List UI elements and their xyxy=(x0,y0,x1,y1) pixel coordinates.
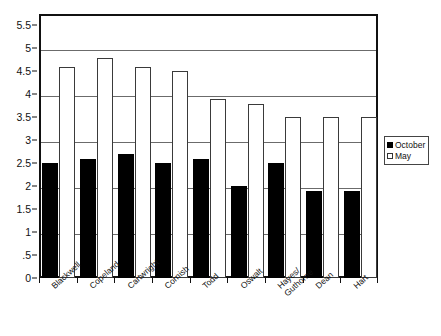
y-tick-label: .5 xyxy=(22,249,31,261)
y-tick-label: 1 xyxy=(25,226,31,238)
y-axis: 0.511.522.533.544.555.5 xyxy=(0,14,37,278)
legend-label: May xyxy=(395,151,411,161)
bar-may xyxy=(285,117,301,278)
y-tick-mark xyxy=(32,163,37,164)
bar-group xyxy=(155,14,188,278)
bar-group xyxy=(268,14,301,278)
y-tick-label: 2.5 xyxy=(16,157,31,169)
bar-october xyxy=(306,191,322,278)
y-tick-mark xyxy=(32,209,37,210)
bar-may xyxy=(135,67,151,278)
bar-october xyxy=(80,159,96,278)
bar-october xyxy=(42,163,58,278)
bar-may xyxy=(323,117,339,278)
y-tick-label: 4 xyxy=(25,88,31,100)
bar-october xyxy=(118,154,134,278)
bar-group xyxy=(80,14,113,278)
y-tick-label: 3 xyxy=(25,134,31,146)
bar-group xyxy=(344,14,377,278)
bar-chart: 0.511.522.533.544.555.5 BlackwellCopelan… xyxy=(0,0,441,336)
x-axis-labels: BlackwellCopelandCartwrightCornishToddOs… xyxy=(39,278,384,336)
y-tick-mark xyxy=(32,232,37,233)
bar-may xyxy=(172,71,188,278)
bar-october xyxy=(268,163,284,278)
y-tick-mark xyxy=(32,186,37,187)
y-tick-label: 4.5 xyxy=(16,65,31,77)
y-tick-label: 5 xyxy=(25,42,31,54)
legend-swatch-icon xyxy=(387,153,393,159)
bar-group xyxy=(118,14,151,278)
y-tick-mark xyxy=(32,25,37,26)
bar-group xyxy=(306,14,339,278)
y-tick-mark xyxy=(32,48,37,49)
legend-label: October xyxy=(395,140,425,150)
bar-october xyxy=(231,186,247,278)
bar-october xyxy=(193,159,209,278)
bar-group xyxy=(231,14,264,278)
y-tick-label: 0 xyxy=(25,272,31,284)
y-tick-label: 2 xyxy=(25,180,31,192)
bar-may xyxy=(361,117,377,278)
bar-may xyxy=(97,58,113,278)
y-tick-mark xyxy=(32,71,37,72)
bar-group xyxy=(193,14,226,278)
bar-october xyxy=(344,191,360,278)
y-tick-mark xyxy=(32,117,37,118)
y-tick-mark xyxy=(32,140,37,141)
chart-legend: OctoberMay xyxy=(384,136,429,165)
bar-group xyxy=(42,14,75,278)
bar-may xyxy=(248,104,264,278)
bar-may xyxy=(210,99,226,278)
y-tick-mark xyxy=(32,278,37,279)
legend-item: May xyxy=(387,150,425,161)
y-tick-label: 5.5 xyxy=(16,19,31,31)
y-tick-mark xyxy=(32,255,37,256)
y-tick-mark xyxy=(32,94,37,95)
y-tick-label: 3.5 xyxy=(16,111,31,123)
bar-may xyxy=(59,67,75,278)
legend-swatch-icon xyxy=(387,142,393,148)
legend-item: October xyxy=(387,139,425,150)
y-tick-label: 1.5 xyxy=(16,203,31,215)
bars-layer xyxy=(39,14,378,278)
